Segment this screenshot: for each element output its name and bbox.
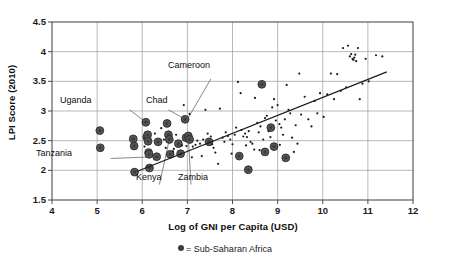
chart-figure: LPI Score (2010) Log of GNI per Capita (… bbox=[0, 0, 450, 269]
annotation-cameroon: Cameroon bbox=[168, 60, 210, 70]
series-sub-saharan-africa bbox=[96, 80, 290, 176]
annotation-zambia: Zambia bbox=[178, 172, 208, 182]
scatter-plot-area bbox=[0, 0, 450, 269]
axis-ticks bbox=[48, 22, 413, 204]
legend-marker-icon bbox=[178, 245, 184, 251]
annotation-uganda: Uganda bbox=[60, 95, 92, 105]
annotation-chad: Chad bbox=[146, 95, 168, 105]
legend-label: = Sub-Saharan Africa bbox=[186, 244, 272, 254]
annotation-kenya: Kenya bbox=[136, 172, 162, 182]
annotation-tanzania: Tanzania bbox=[36, 148, 72, 158]
chart-legend: = Sub-Saharan Africa bbox=[0, 243, 450, 254]
